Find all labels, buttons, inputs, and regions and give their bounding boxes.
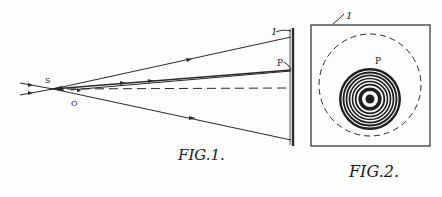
label-s: S [45,76,50,85]
arrow-icon [28,83,33,87]
ray-to-p [53,70,291,89]
arrow-icon [77,88,81,92]
arrow-icon [120,81,126,85]
figure-2 [311,14,430,146]
screen-leader-line [276,30,291,32]
label-p-fig1: P [277,58,283,68]
incoming-ray-bottom [20,89,53,95]
patent-drawing: S O 1 P FIG.1. 1 P FIG.2. [0,0,442,197]
screen-leader-line-fig2 [333,14,344,24]
interference-rings [339,68,401,130]
fig1-caption: FIG.1. [177,146,225,164]
fig2-caption: FIG.2. [348,162,399,181]
label-screen-1-fig2: 1 [346,10,352,21]
label-o: O [71,99,78,108]
label-screen-1: 1 [271,26,277,37]
arrow-icon [28,91,33,95]
figure-1 [20,28,293,146]
ray-bottom [53,89,291,140]
label-p-fig2: P [375,56,381,66]
ring-center-dot [366,95,375,104]
ray-to-p-second [70,71,291,90]
drawing-canvas: S O 1 P FIG.1. 1 P FIG.2. [0,0,442,197]
